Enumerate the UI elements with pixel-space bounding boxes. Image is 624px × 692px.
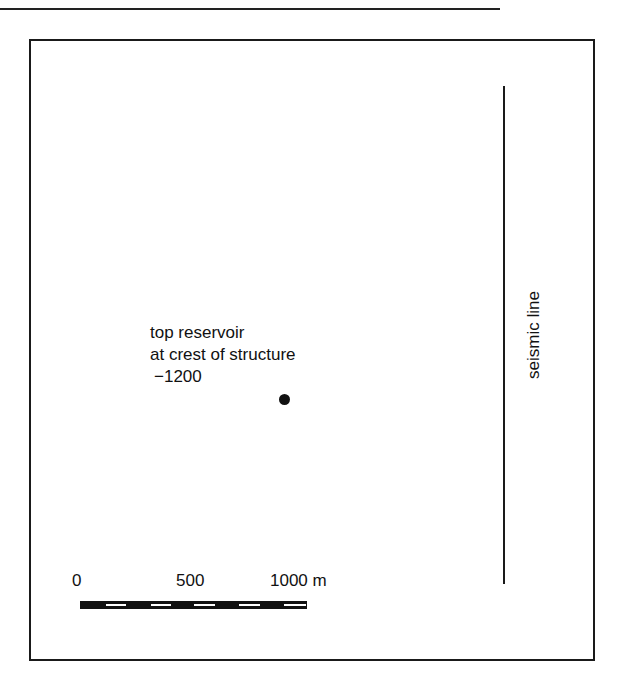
map-frame: [29, 39, 595, 661]
annotation-line-1: top reservoir: [150, 322, 296, 344]
scale-label-0: 0: [72, 571, 81, 591]
depth-value: −1200: [150, 366, 296, 388]
scale-segment: [260, 602, 284, 608]
crest-point-marker: [279, 394, 290, 405]
scale-segment: [106, 602, 126, 608]
scale-label-500: 500: [176, 571, 204, 591]
scale-segment: [194, 602, 215, 608]
annotation-line-2: at crest of structure: [150, 344, 296, 366]
scale-segment: [215, 602, 239, 608]
scale-segment: [284, 602, 306, 608]
scale-bar: [80, 601, 307, 609]
crest-annotation: top reservoir at crest of structure −120…: [150, 322, 296, 388]
seismic-line: [503, 86, 505, 584]
page-top-rule: [0, 8, 500, 10]
scale-segment: [126, 602, 151, 608]
scale-segment: [151, 602, 171, 608]
scale-label-1000: 1000 m: [270, 571, 327, 591]
scale-segment: [239, 602, 260, 608]
scale-segment: [81, 602, 106, 608]
scale-segment: [171, 602, 194, 608]
seismic-line-label: seismic line: [524, 291, 544, 379]
